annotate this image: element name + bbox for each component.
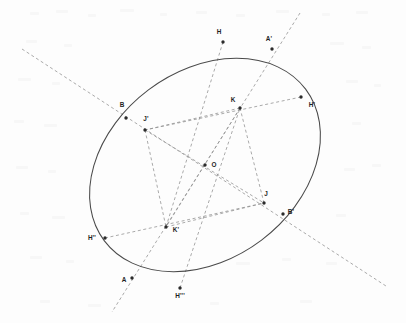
- point-B: [124, 116, 127, 119]
- label-Kprm: K': [173, 226, 180, 233]
- label-K: K: [231, 96, 236, 103]
- segment-Kprime-to-J: [166, 203, 264, 227]
- point-O: [203, 163, 206, 166]
- label-J: J: [264, 190, 268, 197]
- point-Htrp: [178, 286, 181, 289]
- point-K: [238, 106, 241, 109]
- point-Hdbl: [103, 236, 106, 239]
- points-group: [103, 40, 302, 289]
- chord-Hdoubleprime-to-J: [105, 203, 264, 238]
- label-Hprm: H': [309, 101, 316, 108]
- point-H: [221, 40, 224, 43]
- chord-H-to-Kprime: [166, 42, 223, 227]
- figure-root: HA'H'KBJ'OJB'K'H''AH''': [0, 0, 406, 323]
- segment-K-to-Kprime: [166, 108, 240, 227]
- segment-Jprime-to-Kprime: [145, 130, 166, 227]
- geometry-canvas: HA'H'KBJ'OJB'K'H''AH''': [0, 0, 406, 323]
- construction-lines-group: [22, 13, 386, 312]
- label-A: A: [122, 276, 127, 283]
- point-J: [262, 201, 265, 204]
- chord-Hprime-to-Jprime: [145, 97, 301, 130]
- segment-K-to-J: [240, 108, 264, 203]
- label-B: B: [120, 101, 125, 108]
- label-Bprm: B': [288, 208, 295, 215]
- label-H: H: [217, 28, 222, 35]
- label-Htrp: H''': [175, 292, 185, 299]
- chord-Htripleprime-to-K: [180, 108, 240, 288]
- segment-K-to-Jprime: [145, 108, 240, 130]
- point-Kprm: [164, 225, 167, 228]
- point-Bprm: [281, 212, 284, 215]
- point-Aprm: [270, 47, 273, 50]
- label-Jprm: J': [143, 115, 149, 122]
- point-Jprm: [143, 128, 146, 131]
- label-Aprm: A': [266, 35, 273, 42]
- label-O: O: [211, 161, 216, 168]
- point-A: [130, 276, 133, 279]
- label-Hdbl: H'': [88, 234, 96, 241]
- secant-through-B-and-Bprime: [22, 49, 386, 286]
- point-Hprm: [299, 95, 302, 98]
